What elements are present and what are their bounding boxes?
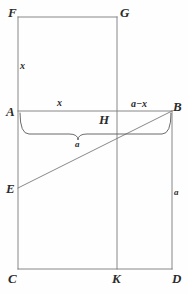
measure-label-x-top: x xyxy=(57,98,62,108)
vertex-label-C: C xyxy=(8,272,17,285)
geometry-figure: FGABHECKDxxa−xaa xyxy=(0,0,188,294)
vertex-label-B: B xyxy=(173,100,182,113)
vertex-label-G: G xyxy=(120,6,129,19)
vertex-label-E: E xyxy=(6,182,15,195)
vertex-label-A: A xyxy=(6,105,15,118)
figure-background xyxy=(0,0,188,294)
measure-label-a-brace: a xyxy=(75,140,80,149)
vertex-label-H: H xyxy=(99,113,109,126)
measure-label-a-minus-x: a−x xyxy=(131,99,147,109)
figure-drawing-canvas xyxy=(0,0,188,294)
measure-label-a-right: a xyxy=(174,188,179,197)
vertex-label-D: D xyxy=(172,272,181,285)
vertex-label-K: K xyxy=(112,272,121,285)
measure-label-x-left: x xyxy=(20,61,25,71)
vertex-label-F: F xyxy=(8,6,17,19)
